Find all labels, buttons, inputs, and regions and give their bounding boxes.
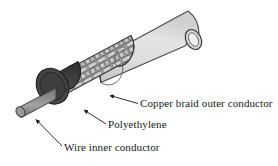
label-polyethylene: Polyethylene — [108, 118, 167, 130]
leader-line-copper-braid — [110, 96, 138, 104]
coaxial-cable-figure: Copper braid outer conductor Polyethylen… — [0, 0, 278, 166]
cable-illustration: Copper braid outer conductor Polyethylen… — [0, 0, 278, 166]
label-wire-inner-conductor: Wire inner conductor — [64, 141, 160, 153]
leader-line-polyethylene — [84, 110, 106, 124]
leader-line-wire-inner — [36, 120, 62, 147]
label-copper-braid-outer-conductor: Copper braid outer conductor — [140, 97, 273, 109]
